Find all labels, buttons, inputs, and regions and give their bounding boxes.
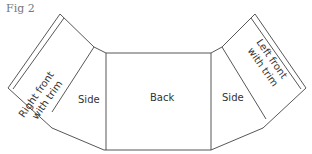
back-label: Back <box>150 92 174 103</box>
svg-text:Left front with trim: Left front with trim <box>244 37 291 90</box>
svg-text:Right front with trim: Right front with trim <box>16 67 67 126</box>
left-side-label: Side <box>78 94 100 105</box>
pattern-diagram: Fig 2 Right front with trim Side Back Si… <box>0 0 312 154</box>
right-side-label: Side <box>222 92 244 103</box>
pattern-pieces: Right front with trim Side Back Side Lef… <box>0 0 312 154</box>
